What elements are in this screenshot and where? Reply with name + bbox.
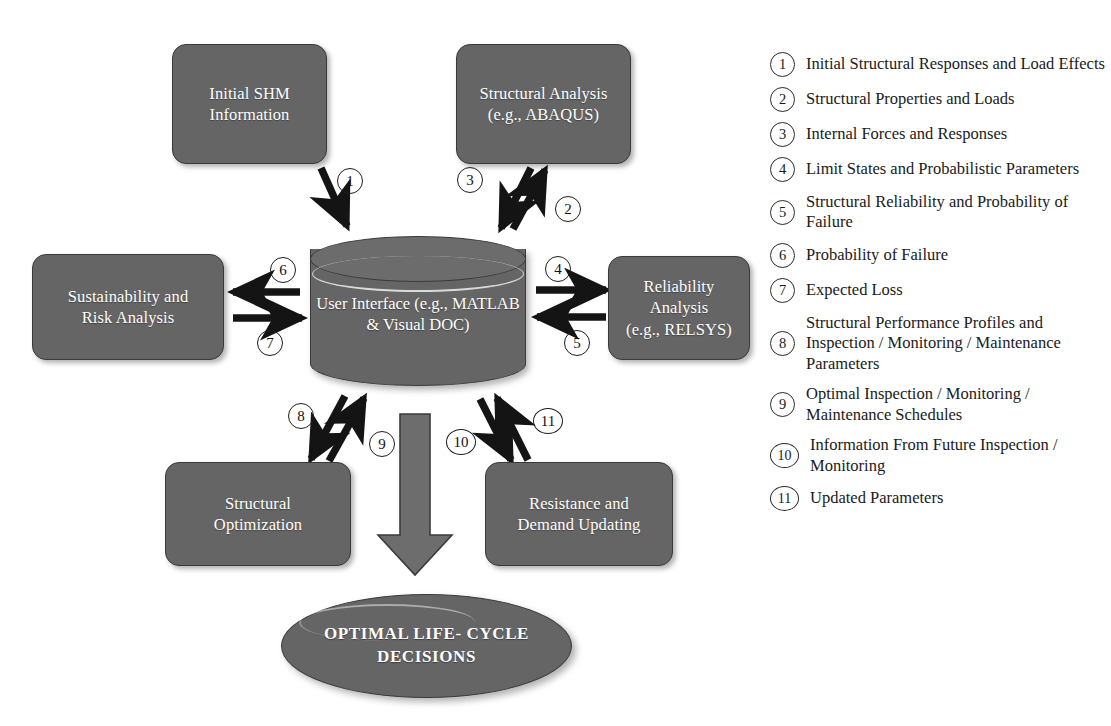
legend-label: Structural Performance Profiles and Insp… bbox=[806, 313, 1105, 374]
legend-number: 8 bbox=[770, 331, 795, 356]
node-reliability-analysis[interactable]: Reliability Analysis (e.g., RELSYS) bbox=[608, 256, 750, 360]
legend-item: 11 Updated Parameters bbox=[770, 486, 1105, 511]
node-line: Structural bbox=[214, 493, 302, 514]
node-line: Information bbox=[209, 104, 289, 125]
arrow-marker-10: 10 bbox=[446, 429, 476, 455]
node-line: Demand Updating bbox=[518, 514, 641, 535]
arrow-marker-2: 2 bbox=[555, 196, 581, 222]
legend-item: 7 Expected Loss bbox=[770, 278, 1105, 303]
legend-number: 6 bbox=[770, 243, 795, 268]
node-line: Structural Analysis bbox=[480, 83, 608, 104]
legend-label: Limit States and Probabilistic Parameter… bbox=[806, 159, 1079, 179]
node-structural-optimization[interactable]: Structural Optimization bbox=[165, 462, 351, 566]
node-line: Resistance and bbox=[518, 493, 641, 514]
arrow-marker-4: 4 bbox=[545, 256, 571, 282]
legend-label: Expected Loss bbox=[806, 280, 903, 300]
arrow-11 bbox=[497, 398, 528, 460]
node-line: User Interface bbox=[316, 294, 410, 313]
legend-number: 4 bbox=[770, 157, 795, 182]
legend-label: Optimal Inspection / Monitoring / Mainte… bbox=[806, 384, 1105, 425]
arrow-8 bbox=[311, 396, 345, 459]
node-line: (e.g., ABAQUS) bbox=[480, 104, 608, 125]
legend-item: 4 Limit States and Probabilistic Paramet… bbox=[770, 157, 1105, 182]
arrow-10 bbox=[480, 399, 511, 460]
arrow-marker-6: 6 bbox=[270, 257, 296, 283]
diagram-canvas: Initial SHM Information Structural Analy… bbox=[0, 0, 1111, 726]
legend-label: Information From Future Inspection / Mon… bbox=[810, 435, 1105, 476]
legend-item: 1 Initial Structural Responses and Load … bbox=[770, 52, 1105, 77]
node-user-interface[interactable]: User Interface (e.g., MATLAB & Visual DO… bbox=[310, 236, 526, 386]
legend-number: 7 bbox=[770, 278, 795, 303]
legend-number: 11 bbox=[770, 486, 799, 511]
legend-number: 10 bbox=[770, 443, 799, 468]
legend: 1 Initial Structural Responses and Load … bbox=[770, 52, 1105, 521]
legend-item: 5 Structural Reliability and Probability… bbox=[770, 192, 1105, 233]
node-line: (e.g., RELSYS) bbox=[626, 319, 732, 340]
legend-number: 5 bbox=[770, 200, 795, 225]
legend-label: Structural Reliability and Probability o… bbox=[806, 192, 1105, 233]
node-sustainability-and-risk-analysis[interactable]: Sustainability and Risk Analysis bbox=[32, 254, 224, 360]
cylinder-label: User Interface (e.g., MATLAB & Visual DO… bbox=[310, 293, 526, 336]
node-structural-analysis[interactable]: Structural Analysis (e.g., ABAQUS) bbox=[456, 44, 631, 164]
legend-number: 9 bbox=[770, 392, 795, 417]
node-line: Analysis bbox=[626, 297, 732, 318]
node-line: Optimization bbox=[214, 514, 302, 535]
legend-number: 2 bbox=[770, 87, 795, 112]
node-line: Reliability bbox=[626, 276, 732, 297]
legend-label: Updated Parameters bbox=[810, 488, 943, 508]
legend-item: 8 Structural Performance Profiles and In… bbox=[770, 313, 1105, 374]
legend-number: 1 bbox=[770, 52, 795, 77]
node-line: OPTIMAL LIFE- bbox=[324, 624, 462, 643]
node-initial-shm-information[interactable]: Initial SHM Information bbox=[172, 44, 327, 164]
arrow-marker-3: 3 bbox=[457, 167, 483, 193]
legend-number: 3 bbox=[770, 122, 795, 147]
cylinder-lip bbox=[312, 256, 524, 292]
node-resistance-and-demand-updating[interactable]: Resistance and Demand Updating bbox=[485, 462, 673, 566]
legend-label: Initial Structural Responses and Load Ef… bbox=[806, 54, 1105, 74]
node-line: Sustainability and bbox=[68, 286, 189, 307]
node-line: Risk Analysis bbox=[68, 307, 189, 328]
node-optimal-life-cycle-decisions[interactable]: OPTIMAL LIFE- CYCLE DECISIONS bbox=[281, 594, 572, 698]
node-line: Visual DOC) bbox=[383, 315, 470, 334]
legend-item: 6 Probability of Failure bbox=[770, 243, 1105, 268]
arrow-marker-9: 9 bbox=[369, 431, 395, 457]
legend-item: 10 Information From Future Inspection / … bbox=[770, 435, 1105, 476]
arrow-marker-11: 11 bbox=[533, 408, 563, 434]
legend-label: Probability of Failure bbox=[806, 245, 948, 265]
legend-item: 2 Structural Properties and Loads bbox=[770, 87, 1105, 112]
arrow-marker-1: 1 bbox=[337, 168, 363, 194]
node-line: Initial SHM bbox=[209, 83, 289, 104]
legend-item: 3 Internal Forces and Responses bbox=[770, 122, 1105, 147]
arrow-marker-8: 8 bbox=[288, 403, 314, 429]
arrow-marker-5: 5 bbox=[564, 330, 590, 356]
legend-label: Structural Properties and Loads bbox=[806, 89, 1015, 109]
arrow-3 bbox=[501, 168, 531, 228]
arrow-9 bbox=[329, 398, 364, 461]
arrow-2 bbox=[513, 170, 545, 229]
legend-item: 9 Optimal Inspection / Monitoring / Main… bbox=[770, 384, 1105, 425]
legend-label: Internal Forces and Responses bbox=[806, 124, 1007, 144]
arrow-marker-7: 7 bbox=[257, 330, 283, 356]
